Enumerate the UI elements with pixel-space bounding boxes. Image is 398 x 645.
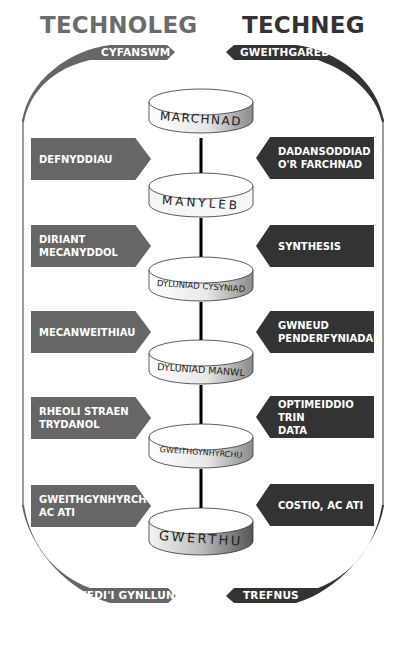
left-box-text: MECANWEITHIAU <box>39 326 135 339</box>
right-box-text: OPTIMEIDDIO TRIN DATA <box>278 398 374 437</box>
left-box-text: RHEOLI STRAEN TRYDANOL <box>39 405 129 431</box>
right-box-text: DADANSODDIAD O'R FARCHNAD <box>278 145 371 171</box>
left-box-text: GWEITHGYNHYRCHU, AC ATI <box>39 493 159 519</box>
arc-label-wedi-i-gynllunio: WEDI'I GYNLLUNIO <box>75 589 188 601</box>
title-techneg: TECHNEG <box>242 12 365 38</box>
title-technoleg: TECHNOLEG <box>40 12 197 38</box>
arc-label-gweithgaredd: GWEITHGAREDD <box>240 46 339 58</box>
left-box-text: DEFNYDDIAU <box>39 153 112 166</box>
left-box-diriant-mecanyddol: DIRIANT MECANYDDOL <box>31 225 151 267</box>
right-box-costio: COSTIO, AC ATI <box>256 484 374 526</box>
right-box-gwneud-penderfyniadau: GWNEUD PENDERFYNIADAU <box>256 311 374 353</box>
design-process-diagram: TECHNOLEG TECHNEG CYFANSWM GWEITHGAREDD … <box>0 0 398 645</box>
right-box-text: GWNEUD PENDERFYNIADAU <box>278 319 381 345</box>
left-box-gweithgynhyrchu: GWEITHGYNHYRCHU, AC ATI <box>31 485 151 527</box>
arc-label-cyfanswm: CYFANSWM <box>101 46 170 58</box>
arc-label-trefnus: TREFNUS <box>243 589 299 601</box>
right-box-synthesis: SYNTHESIS <box>256 225 374 267</box>
left-box-mecanweithiau: MECANWEITHIAU <box>31 311 151 353</box>
left-box-text: DIRIANT MECANYDDOL <box>39 233 118 259</box>
left-box-defnyddiau: DEFNYDDIAU <box>31 138 151 180</box>
right-box-text: SYNTHESIS <box>278 240 341 253</box>
right-box-optimeiddio: OPTIMEIDDIO TRIN DATA <box>256 396 374 438</box>
right-box-dadansoddiad: DADANSODDIAD O'R FARCHNAD <box>256 137 374 179</box>
right-box-text: COSTIO, AC ATI <box>278 499 363 512</box>
left-box-rheoli-straen: RHEOLI STRAEN TRYDANOL <box>31 397 151 439</box>
